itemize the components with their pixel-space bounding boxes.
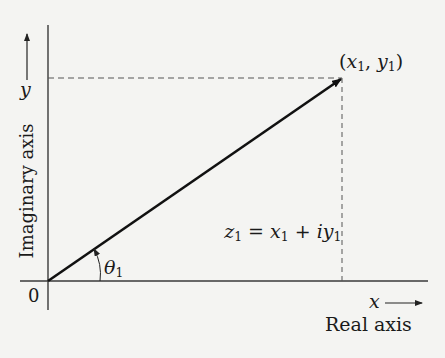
real-axis-label: Real axis bbox=[325, 315, 412, 334]
point-y-sub: 1 bbox=[388, 60, 396, 74]
y-axis-variable-label: y bbox=[20, 80, 31, 99]
theta-sub: 1 bbox=[115, 266, 123, 280]
eq-y: y bbox=[323, 220, 334, 242]
angle-theta-arc bbox=[94, 249, 100, 281]
eq-plus: + bbox=[289, 220, 317, 242]
eq-z-sub: 1 bbox=[234, 230, 242, 244]
point-close-paren: ) bbox=[396, 50, 403, 72]
complex-plane-diagram: 0 y Imaginary axis x Real axis (x1, y1) … bbox=[0, 0, 445, 358]
theta-symbol: θ bbox=[104, 256, 115, 278]
eq-equals: = bbox=[242, 220, 270, 242]
point-x-sub: 1 bbox=[357, 60, 365, 74]
eq-x-sub: 1 bbox=[281, 230, 289, 244]
eq-z: z bbox=[224, 220, 234, 242]
point-label: (x1, y1) bbox=[339, 52, 403, 73]
vector-equation-label: z1 = x1 + iy1 bbox=[200, 203, 341, 262]
eq-y-sub: 1 bbox=[333, 230, 341, 244]
point-x: x bbox=[346, 50, 357, 72]
origin-label: 0 bbox=[28, 287, 39, 305]
point-y: y bbox=[377, 50, 388, 72]
imaginary-axis-label: Imaginary axis bbox=[18, 121, 36, 261]
angle-theta-label: θ1 bbox=[104, 258, 123, 279]
x-axis-variable-label: x bbox=[369, 292, 380, 311]
eq-x: x bbox=[270, 220, 281, 242]
point-sep: , bbox=[365, 50, 377, 72]
